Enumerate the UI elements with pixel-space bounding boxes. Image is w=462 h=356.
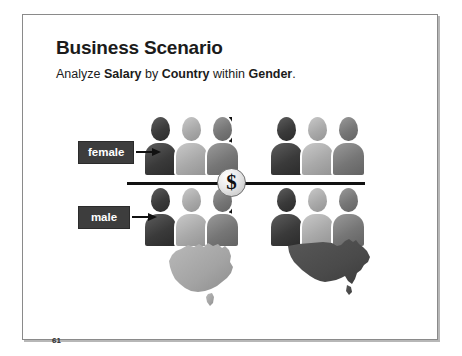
quadrant-diagram: $: [23, 93, 437, 313]
horizontal-axis-line: [127, 182, 365, 185]
subtitle-text-analyze: Analyze: [56, 67, 104, 81]
page-title: Business Scenario: [56, 37, 223, 59]
usa-map-icon: [285, 237, 377, 303]
subtitle-term-gender: Gender: [248, 67, 292, 81]
subtitle-term-salary: Salary: [104, 67, 142, 81]
person-icon: [176, 188, 207, 246]
subtitle-term-country: Country: [162, 67, 210, 81]
row-label-male: male: [78, 206, 158, 229]
row-label-female: female: [78, 141, 162, 164]
slide-frame: Business Scenario Analyze Salary by Coun…: [22, 14, 438, 340]
row-label-male-box: male: [78, 206, 130, 229]
australia-map-icon: [161, 241, 239, 313]
person-icon: [302, 117, 333, 175]
slide-subtitle: Analyze Salary by Country within Gender.: [56, 67, 296, 81]
page-number: 61: [52, 336, 61, 345]
person-icon: [176, 117, 207, 175]
subtitle-text-period: .: [292, 67, 295, 81]
dollar-sign-glyph: $: [226, 172, 237, 193]
person-icon: [207, 117, 238, 175]
person-icon: [271, 117, 302, 175]
people-group-male-australia: [145, 188, 238, 246]
person-icon: [333, 117, 364, 175]
subtitle-text-by: by: [141, 67, 161, 81]
right-arrow-icon: [136, 148, 162, 157]
subtitle-text-within: within: [210, 67, 249, 81]
slide-root: Business Scenario Analyze Salary by Coun…: [0, 0, 462, 356]
dollar-sign-icon: $: [217, 168, 246, 197]
people-group-female-usa: [271, 117, 364, 175]
right-arrow-icon: [132, 213, 158, 222]
row-label-female-box: female: [78, 141, 134, 164]
